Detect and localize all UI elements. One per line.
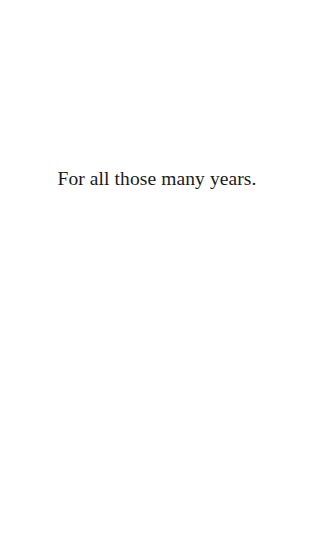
book-page: For all those many years. [0, 0, 314, 555]
dedication-text: For all those many years. [0, 168, 314, 190]
